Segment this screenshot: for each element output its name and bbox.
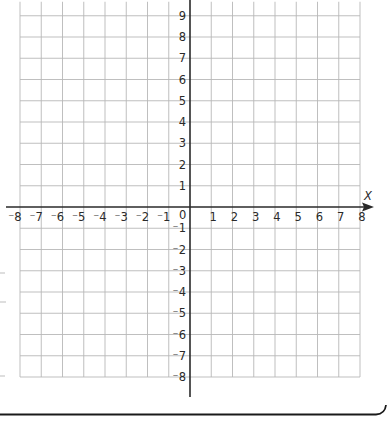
y-tick-label: 3 — [179, 136, 186, 150]
left-margin-marks — [0, 273, 6, 376]
y-tick-label: 1 — [179, 179, 186, 193]
y-tick-label: 2 — [179, 158, 186, 172]
y-tick-label: ⁻7 — [173, 349, 186, 363]
x-tick-label: ⁻5 — [72, 210, 85, 224]
x-axis-label: X — [363, 189, 373, 203]
y-tick-label: 7 — [179, 51, 186, 65]
y-tick-label: 4 — [179, 115, 186, 129]
x-tick-label: 5 — [295, 210, 302, 224]
x-tick-label: ⁻7 — [30, 210, 43, 224]
x-tick-label: ⁻2 — [136, 210, 149, 224]
x-tick-label: ⁻4 — [93, 210, 106, 224]
x-tick-labels: ⁻8⁻7⁻6⁻5⁻4⁻3⁻2⁻112345678 — [8, 210, 365, 224]
y-tick-label: ⁻5 — [173, 306, 186, 320]
y-tick-label: ⁻2 — [173, 243, 186, 257]
x-tick-label: ⁻3 — [115, 210, 128, 224]
x-tick-label: 6 — [316, 210, 323, 224]
x-tick-label: 1 — [210, 210, 217, 224]
x-tick-label: ⁻6 — [51, 210, 64, 224]
x-tick-label: 7 — [337, 210, 344, 224]
axes: X 0 — [6, 0, 374, 397]
x-tick-label: ⁻8 — [8, 210, 21, 224]
y-tick-label: 9 — [179, 9, 186, 23]
y-tick-labels: 987654321⁻1⁻2⁻3⁻4⁻5⁻6⁻7⁻8 — [173, 9, 186, 384]
x-tick-label: 2 — [231, 210, 238, 224]
y-tick-label: ⁻6 — [173, 328, 186, 342]
x-tick-label: 8 — [358, 210, 365, 224]
coordinate-plane: X 0 ⁻8⁻7⁻6⁻5⁻4⁻3⁻2⁻112345678 987654321⁻1… — [0, 0, 387, 423]
y-tick-label: ⁻1 — [173, 221, 186, 235]
frame-border — [0, 405, 386, 415]
y-tick-label: ⁻4 — [173, 285, 186, 299]
y-tick-label: ⁻8 — [173, 370, 186, 384]
y-tick-label: 6 — [179, 73, 186, 87]
y-tick-label: 8 — [179, 30, 186, 44]
x-tick-label: ⁻1 — [157, 210, 170, 224]
x-tick-label: 3 — [252, 210, 259, 224]
y-tick-label: ⁻3 — [173, 264, 186, 278]
x-tick-label: 4 — [273, 210, 280, 224]
origin-label: 0 — [179, 208, 186, 222]
y-tick-label: 5 — [179, 94, 186, 108]
